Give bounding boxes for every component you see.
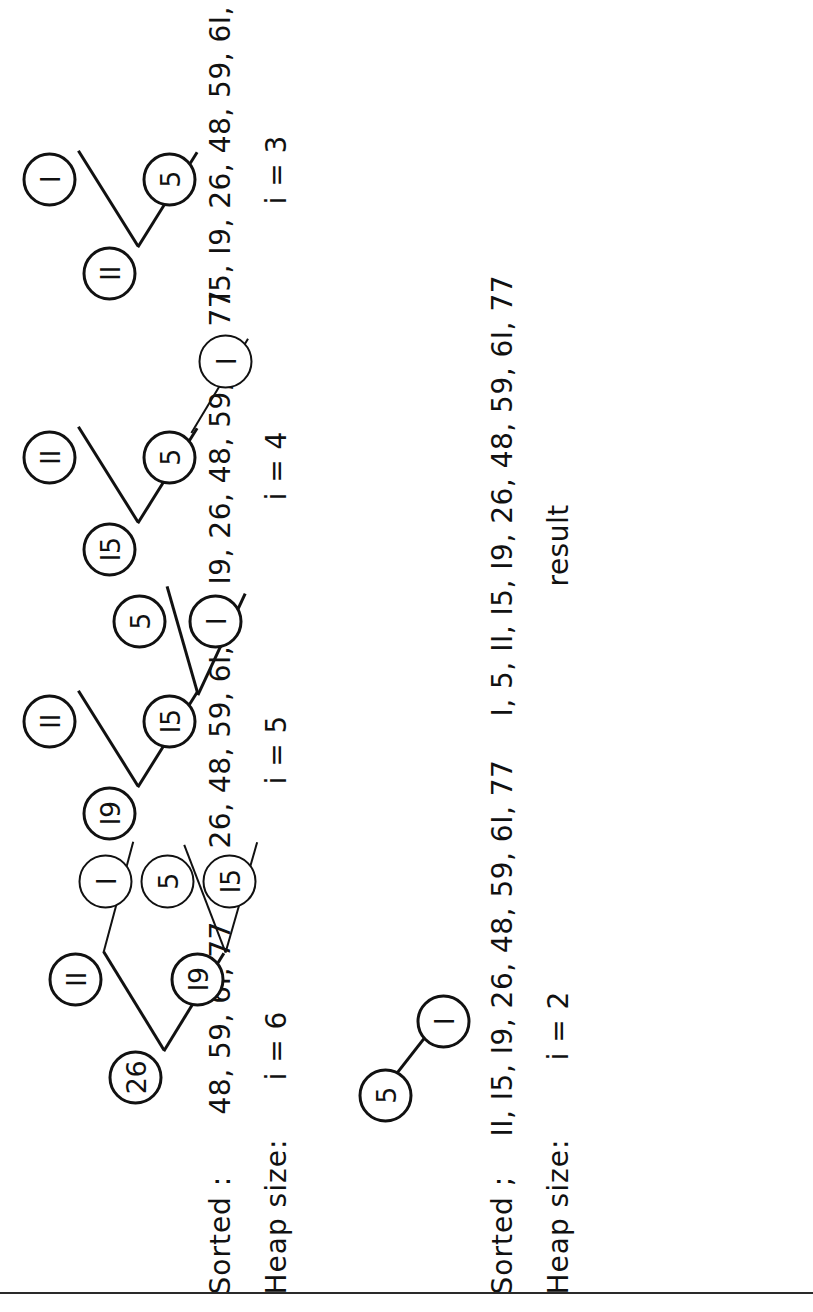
sorted-label-top: Sorted :	[206, 1175, 234, 1294]
result-label: result	[544, 504, 572, 586]
tree-edge	[165, 586, 199, 694]
step-panel-i3: II I 5	[0, 12, 290, 312]
tree-node: II	[48, 952, 102, 1006]
step-panel-i5: I9 II I5 5 I	[0, 560, 290, 860]
heap-size-value-i2: i = 2	[544, 991, 572, 1060]
heap-size-value-i5: i = 5	[262, 715, 290, 784]
tree-edge	[77, 425, 139, 522]
tree-node: II	[22, 430, 76, 484]
sorted-values-i4: I9, 26, 48, 59, 6I, 77	[206, 289, 234, 584]
heap-size-label-top: Heap size:	[262, 1138, 290, 1294]
tree-edge	[77, 689, 139, 786]
heap-size-value-i6: i = 6	[262, 1011, 290, 1080]
tree-node: I	[198, 334, 252, 388]
tree-node: 5	[142, 430, 196, 484]
tree-node: I	[78, 854, 132, 908]
tree-node: 5	[140, 854, 194, 908]
tree-node: II	[22, 694, 76, 748]
heap-size-value-i4: i = 4	[262, 431, 290, 500]
step-panel-i6: 26 II I9 I 5 I5	[0, 834, 290, 1134]
sorted-label-bottom: Sorted ;	[488, 1175, 516, 1294]
figure-page: Sorted : Heap size: 26 II I9 I 5 I5 48, …	[0, 0, 813, 1312]
tree-node: 5	[112, 594, 166, 648]
rotated-figure-canvas: Sorted : Heap size: 26 II I9 I 5 I5 48, …	[0, 0, 813, 1312]
heap-size-label-bottom: Heap size:	[544, 1138, 572, 1294]
tree-node: I9	[170, 952, 224, 1006]
heap-size-value-i3: i = 3	[262, 135, 290, 204]
tree-node: I5	[202, 854, 256, 908]
step-panel-i4: I5 II 5 I	[0, 296, 290, 596]
tree-edge	[77, 149, 139, 246]
sorted-values-i3: I5, I9, 26, 48, 59, 6I, 77	[206, 0, 234, 300]
tree-node: I	[416, 994, 470, 1048]
result-values: I, 5, II, I5, I9, 26, 48, 59, 6I, 77	[488, 274, 516, 716]
sorted-values-i6: 48, 59, 6I, 77	[206, 921, 234, 1114]
tree-node: 5	[142, 152, 196, 206]
tree-node: II	[82, 246, 136, 300]
sorted-values-i2: II, I5, I9, 26, 48, 59, 6I, 77	[488, 759, 516, 1136]
tree-node: I5	[142, 694, 196, 748]
tree-node: I	[188, 594, 242, 648]
tree-node: 5	[358, 1068, 412, 1122]
tree-node: I9	[82, 786, 136, 840]
tree-node: I	[22, 152, 76, 206]
tree-edge	[102, 950, 165, 1050]
page-bottom-rule	[0, 1292, 813, 1294]
tree-node: I5	[82, 522, 136, 576]
tree-node: 26	[108, 1050, 162, 1104]
